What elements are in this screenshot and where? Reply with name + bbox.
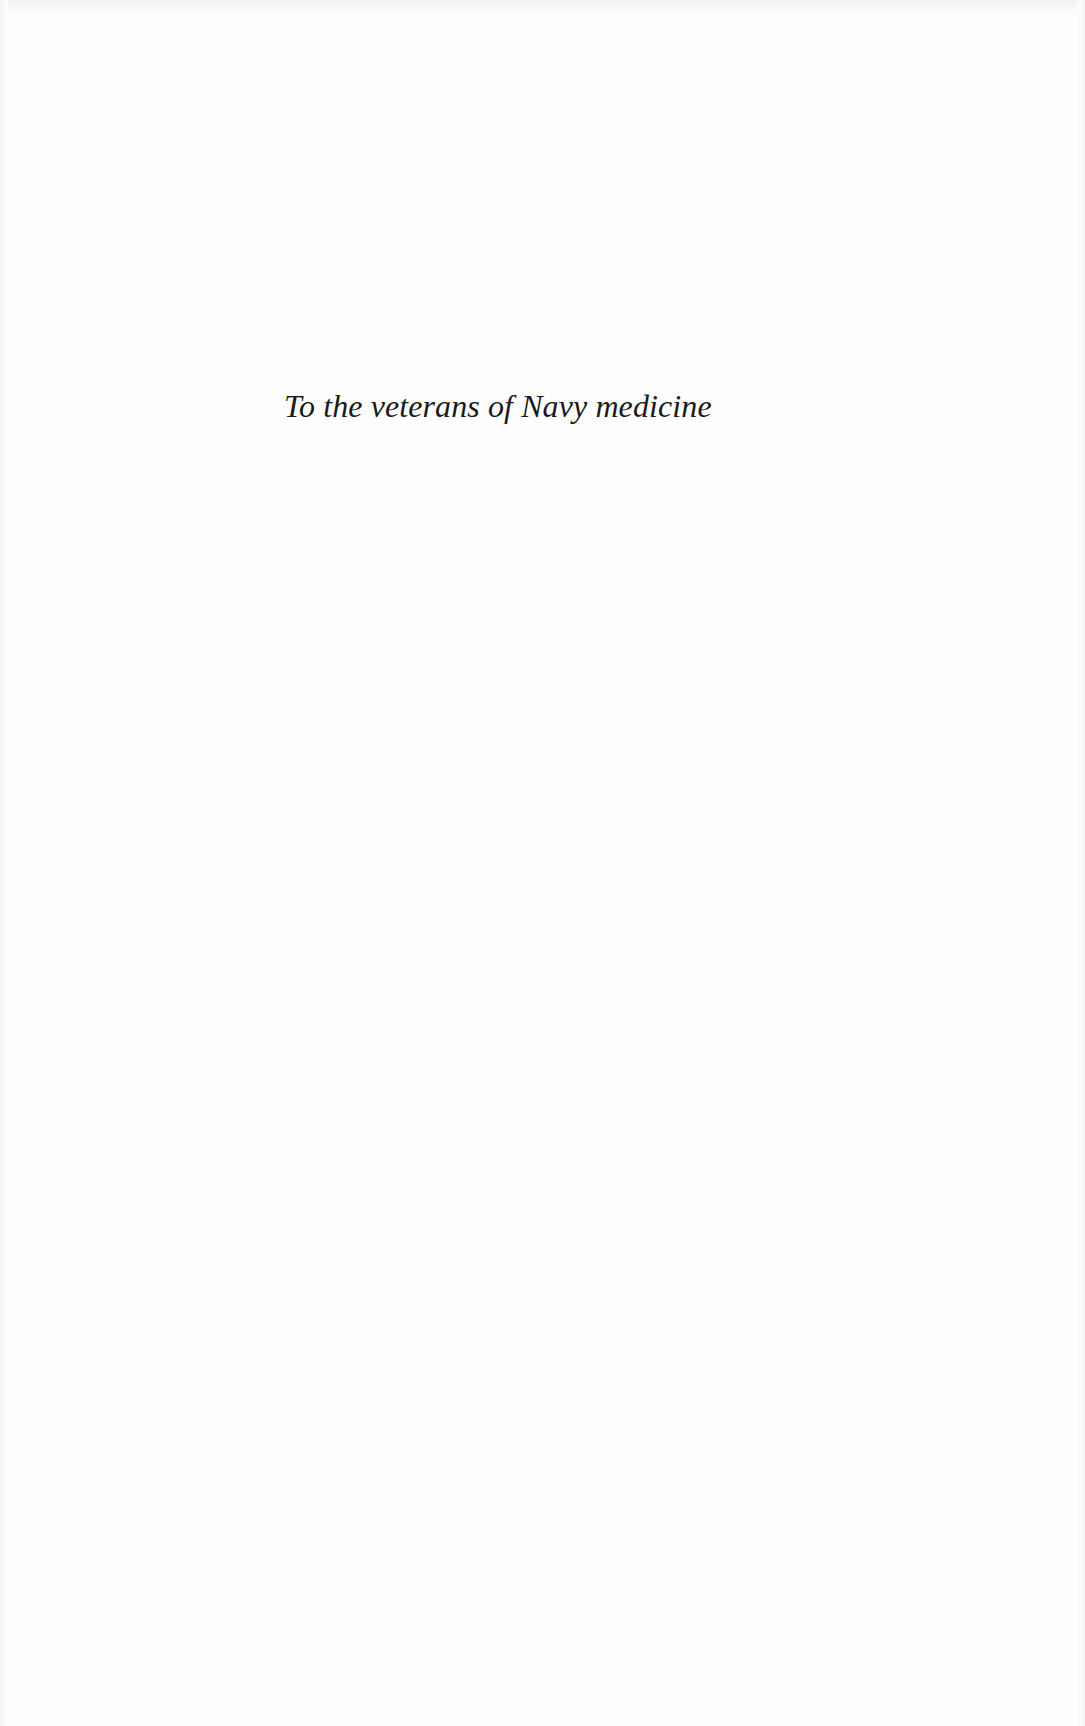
scan-edge-left <box>0 0 8 1726</box>
scan-edge-top <box>0 0 1085 14</box>
scan-edge-right <box>1077 0 1085 1726</box>
dedication-text: To the veterans of Navy medicine <box>284 386 714 426</box>
book-page: To the veterans of Navy medicine <box>0 0 1085 1726</box>
